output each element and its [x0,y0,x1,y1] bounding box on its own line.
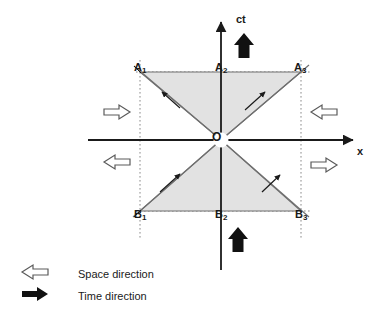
vertex-label-a1: A1 [134,62,146,73]
legend-label-space-direction: Space direction [78,269,154,280]
vertex-a3-sub: 3 [302,66,306,75]
vertex-label-a2: A2 [215,62,227,73]
time-arrow-top [234,33,254,58]
x-axis-label: x [357,146,363,157]
space-arrow-left-lower [104,155,130,169]
legend-label-time-direction: Time direction [78,291,147,302]
vertex-b1-sub: 1 [142,213,146,222]
vertex-label-b3: B3 [295,209,307,220]
vertex-a2-base: A [215,61,223,73]
vertex-b1-base: B [134,208,142,220]
legend-solid-right-arrow-icon [22,287,48,301]
vertex-b2-base: B [215,208,223,220]
diagram-canvas [0,0,378,317]
vertex-label-b1: B1 [134,209,146,220]
legend-hollow-right-arrow-icon [22,265,48,279]
vertex-label-a3: A3 [294,62,306,73]
vertex-a1-base: A [134,61,142,73]
space-arrow-left-upper [104,105,130,119]
space-arrow-right-upper [311,105,337,119]
vertex-label-b2: B2 [215,209,227,220]
time-arrow-bottom [228,227,248,252]
vertex-b2-sub: 2 [223,213,227,222]
vertex-a2-sub: 2 [223,66,227,75]
spacetime-diagram-figure: ct x O A1 A2 A3 B1 B2 B3 Space direction… [0,0,378,317]
vertex-b3-sub: 3 [303,213,307,222]
vertex-a1-sub: 1 [142,66,146,75]
vertex-b3-base: B [295,208,303,220]
vertex-a3-base: A [294,61,302,73]
origin-label: O [212,131,221,143]
space-arrow-right-lower [311,158,337,172]
ct-axis-label: ct [236,14,246,25]
